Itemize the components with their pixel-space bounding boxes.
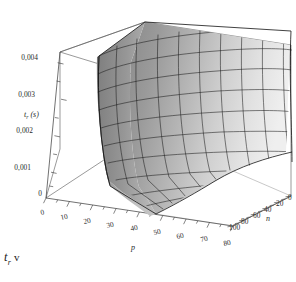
figure-caption: trv bbox=[4, 250, 20, 267]
z-axis-title: tr (s) bbox=[24, 110, 39, 120]
y-axis-title: n bbox=[266, 214, 270, 223]
x-axis-title: p bbox=[130, 243, 135, 252]
z-tick-label-0: 0 bbox=[38, 189, 42, 198]
z-tick-label-0001: 0,001 bbox=[14, 163, 31, 172]
z-axis-ticks bbox=[49, 63, 66, 187]
plot-canvas: 0,004 0,003 0,002 0,001 0 tr (s) bbox=[0, 0, 296, 282]
x-tick-label-80: 80 bbox=[223, 238, 232, 248]
z-tick-label-0003: 0,003 bbox=[18, 90, 35, 99]
surface-mesh bbox=[97, 22, 292, 216]
x-tick-label-10: 10 bbox=[60, 212, 69, 222]
y-tick-label-100: 100 bbox=[229, 223, 240, 232]
x-tick-label-0: 0 bbox=[40, 207, 46, 217]
z-tick-label-0002: 0,002 bbox=[16, 126, 33, 135]
x-tick-label-20: 20 bbox=[83, 216, 92, 226]
surface-plot-figure: 0,004 0,003 0,002 0,001 0 tr (s) bbox=[0, 0, 296, 282]
caption-v: v bbox=[11, 251, 20, 263]
z-axis-title-text: tr (s) bbox=[24, 110, 39, 120]
x-tick-label-50: 50 bbox=[153, 227, 162, 237]
x-axis: 0 10 20 30 40 50 60 70 80 p bbox=[40, 198, 233, 252]
z-tick-label-0004: 0,004 bbox=[21, 53, 38, 62]
x-tick-label-40: 40 bbox=[130, 223, 139, 233]
x-tick-label-60: 60 bbox=[176, 231, 185, 241]
x-tick-label-30: 30 bbox=[106, 220, 115, 230]
z-axis: 0,004 0,003 0,002 0,001 0 tr (s) bbox=[14, 52, 66, 198]
x-tick-label-70: 70 bbox=[200, 234, 209, 244]
